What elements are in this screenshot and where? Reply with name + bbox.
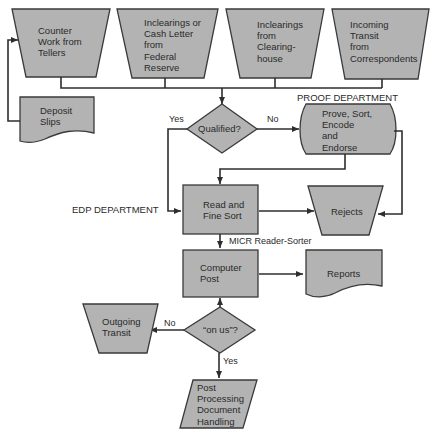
text-line: Outgoing — [102, 316, 141, 327]
counter-work-label: Counter Work from Tellers — [38, 25, 82, 59]
post-processing-label: Post Processing Document Handling — [197, 382, 244, 427]
text-line: Post — [197, 382, 244, 393]
on-us-yes-label: Yes — [223, 356, 238, 366]
text-line: Read and — [203, 199, 244, 210]
text-line: Encode — [322, 119, 372, 130]
text-line: Computer — [200, 262, 242, 273]
text-line: Federal — [144, 51, 201, 62]
clearinghouse-label: Inclearings from Clearing- house — [257, 19, 303, 64]
text-line: Incoming — [350, 19, 418, 30]
text-line: and — [322, 130, 372, 141]
qualified-yes-label: Yes — [169, 114, 184, 124]
outgoing-transit-label: Outgoing Transit — [102, 316, 141, 338]
text-line: Transit — [350, 30, 418, 41]
text-line: Fine Sort — [203, 210, 244, 221]
text-line: Counter — [38, 25, 82, 36]
text-line: Cash Letter — [144, 28, 201, 39]
text-line: Post — [200, 273, 242, 284]
rejects-label: Rejects — [331, 206, 363, 217]
incoming-transit-label: Incoming Transit from Correspondents — [350, 19, 418, 64]
text-line: Deposit — [40, 105, 72, 116]
text-line: Document — [197, 404, 244, 415]
on-us-no-label: No — [164, 318, 176, 328]
text-line: Clearing- — [257, 41, 303, 52]
text-line: Handling — [197, 416, 244, 427]
computer-post-label: Computer Post — [200, 262, 242, 284]
text-line: from — [350, 41, 418, 52]
deposit-slips-label: Deposit Slips — [40, 105, 72, 127]
text-line: Transit — [102, 327, 141, 338]
text-line: from — [144, 39, 201, 50]
text-line: Inclearings or — [144, 17, 201, 28]
text-line: Work from — [38, 36, 82, 47]
text-line: house — [257, 53, 303, 64]
reports-label: Reports — [327, 268, 360, 279]
qualified-no-label: No — [267, 114, 279, 124]
text-line: Processing — [197, 393, 244, 404]
fed-inclearings-label: Inclearings or Cash Letter from Federal … — [144, 17, 201, 73]
text-line: Inclearings — [257, 19, 303, 30]
on-us-label: “on us”? — [203, 324, 238, 335]
text-line: Reserve — [144, 62, 201, 73]
text-line: from — [257, 30, 303, 41]
qualified-label: Qualified? — [198, 123, 241, 134]
read-fine-sort-label: Read and Fine Sort — [203, 199, 244, 221]
text-line: Endorse — [322, 142, 372, 153]
micr-reader-sorter-label: MICR Reader-Sorter — [229, 236, 312, 246]
text-line: Tellers — [38, 47, 82, 58]
prove-sort-label: Prove, Sort, Encode and Endorse — [322, 108, 372, 153]
edp-department-label: EDP DEPARTMENT — [72, 204, 159, 215]
text-line: Slips — [40, 116, 72, 127]
text-line: Prove, Sort, — [322, 108, 372, 119]
text-line: Correspondents — [350, 53, 418, 64]
proof-department-label: PROOF DEPARTMENT — [297, 92, 398, 103]
